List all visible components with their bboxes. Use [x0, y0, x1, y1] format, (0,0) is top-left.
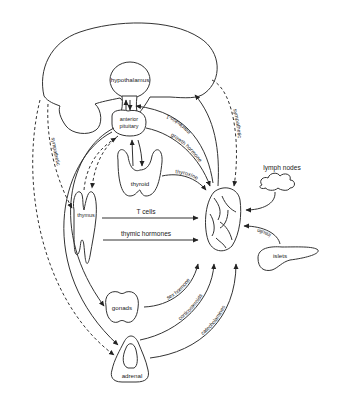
thyroid-label: thyroid: [131, 180, 150, 187]
gonads-label: gonads: [112, 304, 132, 311]
gonads: gonads: [106, 292, 139, 323]
growth-hormone-label: growth hormone: [170, 132, 203, 164]
anterior-pituitary: anterior pituitary: [112, 110, 146, 136]
spleen-to-brain-arrow: [195, 95, 218, 186]
thyroid: thyroid: [118, 150, 162, 196]
hypothalamus: hypothalamus: [110, 62, 150, 98]
adrenal: adrenal: [111, 336, 148, 382]
islets-label: islets: [273, 252, 287, 259]
thyroid-to-pituitary-arrow: [132, 140, 133, 166]
pituitary-to-thyroid-arrow: [138, 140, 142, 166]
catecholamines-label: catecholamines: [200, 304, 227, 336]
lymph-nodes-arrow: [246, 192, 275, 210]
sex-hormone-arrow: [144, 264, 198, 307]
sex-hormone-label: sex hormone: [165, 277, 190, 301]
thymic-hormones-label: thymic hormones: [121, 230, 172, 238]
lymph-nodes-label: lymph nodes: [263, 164, 301, 172]
interleukin-1-label: interleukin-1: [165, 114, 191, 136]
thyroxine-label: thyroxine: [175, 168, 199, 180]
sympathetic-left-label: sympathetic: [50, 137, 62, 166]
thymus-to-pituitary-arrow: [84, 138, 116, 190]
lymph-nodes: lymph nodes: [260, 164, 301, 190]
islets: islets: [258, 247, 318, 271]
pituitary-label: pituitary: [120, 123, 139, 129]
corticosteroids-label: corticosteroids: [177, 292, 204, 321]
thyroxine-arrow: [162, 175, 206, 190]
t-cells-label: T cells: [137, 208, 157, 215]
spleen: [206, 188, 241, 251]
thymus-label: thymus: [77, 212, 95, 218]
hypothalamus-label: hypothalamus: [111, 76, 150, 83]
anterior-label: anterior: [120, 116, 138, 122]
adrenal-label: adrenal: [122, 372, 143, 379]
diagram-canvas: hypothalamus anterior pituitary thyroid …: [0, 0, 339, 399]
sympathetic-right-arrow: [212, 80, 236, 186]
